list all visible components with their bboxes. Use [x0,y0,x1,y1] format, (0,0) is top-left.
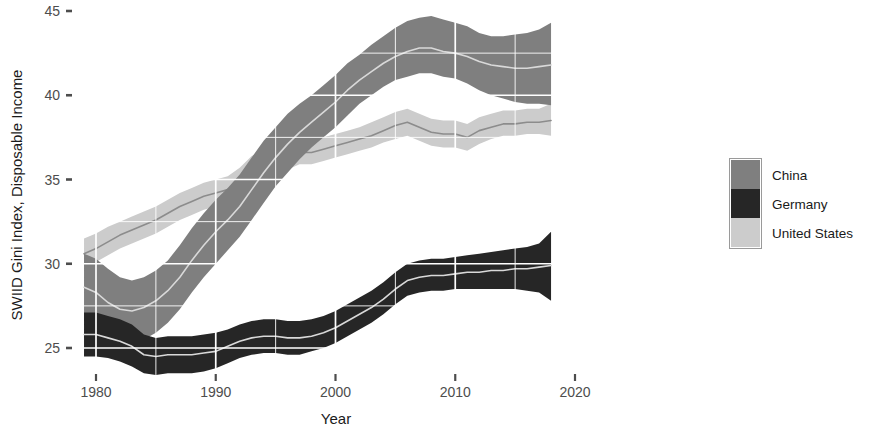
legend-key-united-states[interactable] [731,218,760,247]
legend-label-china: China [772,168,808,183]
gini-index-area-chart: 253035404519801990200020102020 ChinaGerm… [0,0,870,430]
legend-label-united-states: United States [772,226,853,241]
y-tick-label-35: 35 [44,172,60,188]
legend-label-germany: Germany [772,197,828,212]
x-axis-title: Year [321,410,351,427]
y-tick-label-40: 40 [44,87,60,103]
legend-key-germany[interactable] [731,189,760,218]
chart-canvas: 253035404519801990200020102020 ChinaGerm… [0,0,870,430]
x-tick-label-2020: 2020 [559,384,590,400]
y-tick-label-30: 30 [44,256,60,272]
y-tick-label-25: 25 [44,340,60,356]
x-tick-label-1990: 1990 [200,384,231,400]
y-tick-label-45: 45 [44,3,60,19]
x-tick-label-1980: 1980 [80,384,111,400]
x-tick-label-2010: 2010 [440,384,471,400]
y-axis-title: SWIID Gini Index, Disposable Income [8,70,25,321]
legend-key-china[interactable] [731,160,760,189]
x-tick-label-2000: 2000 [320,384,351,400]
